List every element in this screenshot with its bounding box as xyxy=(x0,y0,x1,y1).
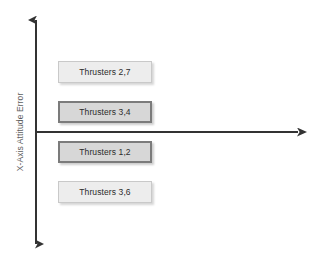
diagram-canvas: X-Axis Attitude Error Thrusters 2,7 Thru… xyxy=(0,0,319,263)
node-label: Thrusters 2,7 xyxy=(79,67,130,77)
node-label: Thrusters 3,4 xyxy=(79,107,130,117)
node-thrusters-3-4[interactable]: Thrusters 3,4 xyxy=(58,101,152,123)
axes-group xyxy=(0,0,319,263)
y-axis-label: X-Axis Attitude Error xyxy=(15,93,25,172)
node-thrusters-1-2[interactable]: Thrusters 1,2 xyxy=(58,141,152,163)
node-label: Thrusters 1,2 xyxy=(79,147,130,157)
node-label: Thrusters 3,6 xyxy=(79,187,130,197)
node-thrusters-3-6[interactable]: Thrusters 3,6 xyxy=(58,181,152,203)
node-thrusters-2-7[interactable]: Thrusters 2,7 xyxy=(58,61,152,83)
